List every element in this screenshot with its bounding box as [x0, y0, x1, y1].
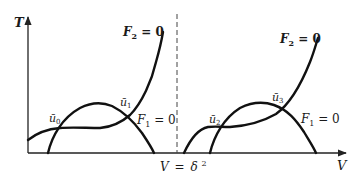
point-u0-label: ū0 — [49, 112, 61, 126]
left-f1-label: F1 = 0 — [136, 113, 176, 129]
left-f2-label: F2 = 0 — [122, 25, 164, 41]
v-axis-label: V — [337, 158, 348, 173]
phase-diagram: T V V = δ 2 F2 = 0 F1 = 0 ū0 ū1 F2 = 0 F… — [0, 0, 360, 176]
right-f2-curve — [184, 38, 318, 153]
right-f1-label: F1 = 0 — [300, 112, 340, 128]
point-u2-label: ū2 — [209, 113, 221, 127]
right-f2-label: F2 = 0 — [279, 32, 321, 48]
divider-label: V = δ 2 — [160, 159, 207, 174]
point-u3-label: ū3 — [272, 91, 284, 105]
point-u1-label: ū1 — [120, 96, 132, 110]
t-axis-label: T — [14, 15, 25, 30]
